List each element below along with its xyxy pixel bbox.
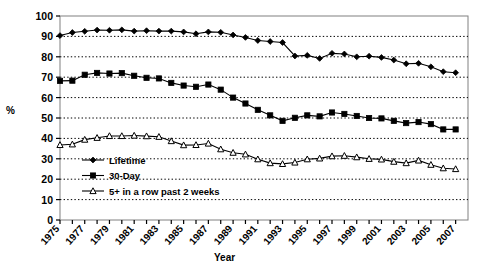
x-axis-tick-label: 1991 bbox=[236, 223, 259, 247]
x-axis-tick-label: 1979 bbox=[88, 223, 111, 247]
legend-label: Lifetime bbox=[109, 155, 145, 166]
x-axis-tick-label: 1983 bbox=[137, 223, 160, 247]
y-axis-tick-label: 20 bbox=[41, 173, 53, 185]
x-axis-tick-label: 1995 bbox=[286, 223, 309, 247]
y-axis-tick-label: 50 bbox=[41, 112, 53, 124]
y-axis-tick-label: 10 bbox=[41, 194, 53, 206]
x-axis-tick-label: 1977 bbox=[63, 223, 86, 247]
y-axis-tick-label: 40 bbox=[41, 132, 53, 144]
x-axis-tick-label: 1981 bbox=[113, 223, 136, 247]
x-axis-tick-label: 2007 bbox=[434, 223, 457, 247]
x-axis-tick-label: 1999 bbox=[335, 223, 358, 247]
y-axis-tick-label: 60 bbox=[41, 92, 53, 104]
x-axis-tick-label: 1989 bbox=[212, 223, 235, 247]
y-axis-tick-label: 30 bbox=[41, 153, 53, 165]
line-chart-plot: 0102030405060708090100197519771979198119… bbox=[0, 0, 491, 272]
legend-label: 30-Day bbox=[109, 170, 141, 181]
x-axis-tick-label: 1985 bbox=[162, 223, 185, 247]
y-axis-tick-label: 100 bbox=[35, 10, 53, 22]
x-axis-tick-label: 1975 bbox=[38, 223, 61, 247]
x-axis-tick-label: 1987 bbox=[187, 223, 210, 247]
y-axis-tick-label: 70 bbox=[41, 71, 53, 83]
x-axis-tick-label: 2003 bbox=[385, 223, 408, 247]
y-axis-tick-label: 90 bbox=[41, 30, 53, 42]
x-axis-tick-label: 2001 bbox=[360, 223, 383, 247]
y-axis-tick-label: 80 bbox=[41, 51, 53, 63]
legend-label: 5+ in a row past 2 weeks bbox=[109, 186, 220, 197]
x-axis-tick-label: 1993 bbox=[261, 223, 284, 247]
x-axis-tick-label: 2005 bbox=[409, 223, 432, 247]
x-axis-tick-label: 1997 bbox=[310, 223, 333, 247]
chart-container: % Year 010203040506070809010019751977197… bbox=[0, 0, 491, 272]
